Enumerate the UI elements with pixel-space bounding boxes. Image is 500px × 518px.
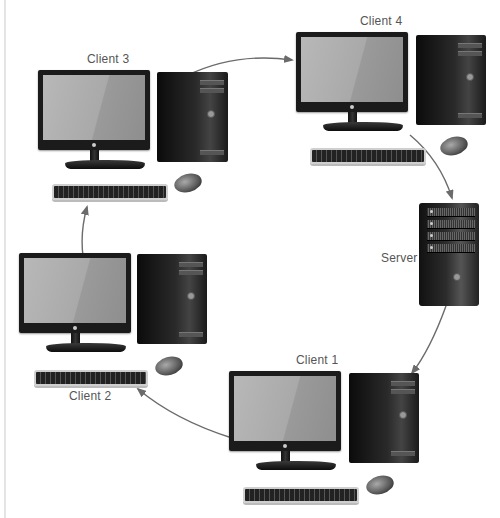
keyboard-icon — [243, 487, 359, 503]
client2-label: Client 2 — [69, 389, 111, 403]
keyboard-icon — [34, 370, 148, 386]
monitor-stand-icon — [46, 343, 126, 352]
pc-tower-icon — [349, 373, 419, 463]
monitor-stand-icon — [65, 160, 145, 169]
arrow-client1-to-client2 — [138, 389, 232, 438]
pc-tower-icon — [157, 72, 228, 162]
arrow-server-to-client1 — [412, 306, 446, 373]
monitor-icon — [19, 253, 131, 333]
server-icon — [419, 203, 479, 306]
monitor-stand-icon — [323, 122, 403, 131]
monitor-stand-icon — [256, 461, 336, 470]
client3-label: Client 3 — [87, 52, 129, 66]
pc-tower-icon — [416, 35, 486, 125]
keyboard-icon — [310, 148, 426, 164]
monitor-icon — [38, 70, 150, 150]
monitor-icon — [229, 371, 341, 451]
monitor-icon — [296, 32, 408, 112]
arrow-client2-to-client3 — [82, 207, 87, 256]
keyboard-icon — [52, 184, 168, 200]
client4-label: Client 4 — [360, 14, 402, 28]
pc-tower-icon — [137, 254, 207, 344]
server-label: Server — [381, 251, 418, 265]
client1-label: Client 1 — [296, 353, 338, 367]
